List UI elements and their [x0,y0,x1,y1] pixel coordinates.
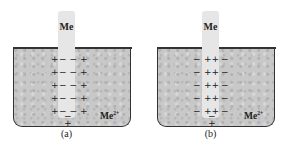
plus-sign: + [64,119,72,128]
plus-signs: ++ [204,81,219,90]
caption: (a) [58,128,75,139]
minus-sign: − [221,107,229,116]
minus-signs: − − [59,81,77,90]
electrode-label: Me [202,21,219,32]
plus-sign: + [51,107,59,116]
minus-sign: − [193,55,201,64]
plus-sign: + [80,68,88,77]
minus-sign: − [221,81,229,90]
caption: (b) [202,128,219,139]
minus-sign: − [221,55,229,64]
plus-sign: + [51,68,59,77]
panel-a: Me + + + + + − − − − − − − − − − − + + +… [0,0,144,150]
minus-sign: − [221,68,229,77]
minus-sign: − [221,94,229,103]
ion-label: Me2+ [244,110,263,121]
plus-sign: + [51,81,59,90]
minus-signs: − − [59,55,77,64]
minus-signs: − − [59,94,77,103]
panel-b: Me − − − − − ++ ++ ++ ++ ++ − − − − − − … [144,0,288,150]
minus-sign: − [193,107,201,116]
minus-sign: − [193,68,201,77]
minus-sign: − [193,81,201,90]
plus-signs: ++ [204,94,219,103]
plus-sign: + [80,55,88,64]
plus-sign: + [208,119,216,128]
plus-sign: + [80,94,88,103]
plus-sign: + [80,81,88,90]
minus-sign: − [193,94,201,103]
plus-sign: + [80,107,88,116]
electrode-label: Me [58,21,75,32]
plus-sign: + [51,55,59,64]
plus-signs: ++ [204,55,219,64]
minus-signs: − − [59,68,77,77]
ion-label: Me2+ [100,110,119,121]
plus-signs: ++ [204,68,219,77]
plus-sign: + [51,94,59,103]
